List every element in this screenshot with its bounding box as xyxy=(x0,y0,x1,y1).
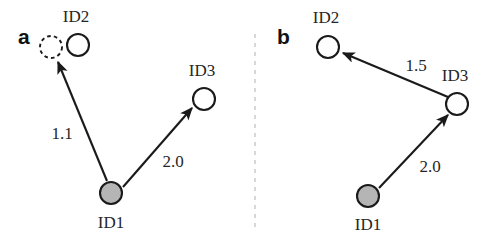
diagram-canvas: a ID2 ID3 ID1 1.1 2.0 b xyxy=(0,0,500,241)
panel-b-letter: b xyxy=(277,25,290,48)
node-a-id2 xyxy=(67,34,89,56)
node-label-b-id1: ID1 xyxy=(355,215,381,234)
node-a-id3 xyxy=(193,88,215,110)
panel-b: b ID2 ID3 ID1 1.5 2.0 xyxy=(277,8,468,234)
edge-label-b-id1-id3: 2.0 xyxy=(419,157,440,176)
edge-label-a-id1-id3: 2.0 xyxy=(162,152,183,171)
panel-a-letter: a xyxy=(18,25,30,48)
node-b-id3 xyxy=(446,93,468,115)
figure-root: a ID2 ID3 ID1 1.1 2.0 b xyxy=(0,0,500,241)
node-label-a-id2: ID2 xyxy=(63,7,89,26)
edge-label-b-id3-id2: 1.5 xyxy=(405,56,426,75)
edge-b-id3-id2 xyxy=(343,53,448,97)
node-label-b-id2: ID2 xyxy=(313,8,339,27)
node-label-b-id3: ID3 xyxy=(442,66,468,85)
edge-b-id1-id3 xyxy=(379,115,448,188)
panel-a: a ID2 ID3 ID1 1.1 2.0 xyxy=(18,7,215,232)
node-b-id2 xyxy=(317,36,339,58)
node-label-a-id3: ID3 xyxy=(189,61,215,80)
node-a-id1 xyxy=(100,182,122,204)
edge-a-id1-id3 xyxy=(123,108,192,187)
node-b-id1 xyxy=(357,185,379,207)
edge-a-id1-id2 xyxy=(58,62,107,181)
node-a-id2-ghost xyxy=(40,36,62,58)
edge-label-a-id1-id2: 1.1 xyxy=(51,124,72,143)
node-label-a-id1: ID1 xyxy=(98,213,124,232)
